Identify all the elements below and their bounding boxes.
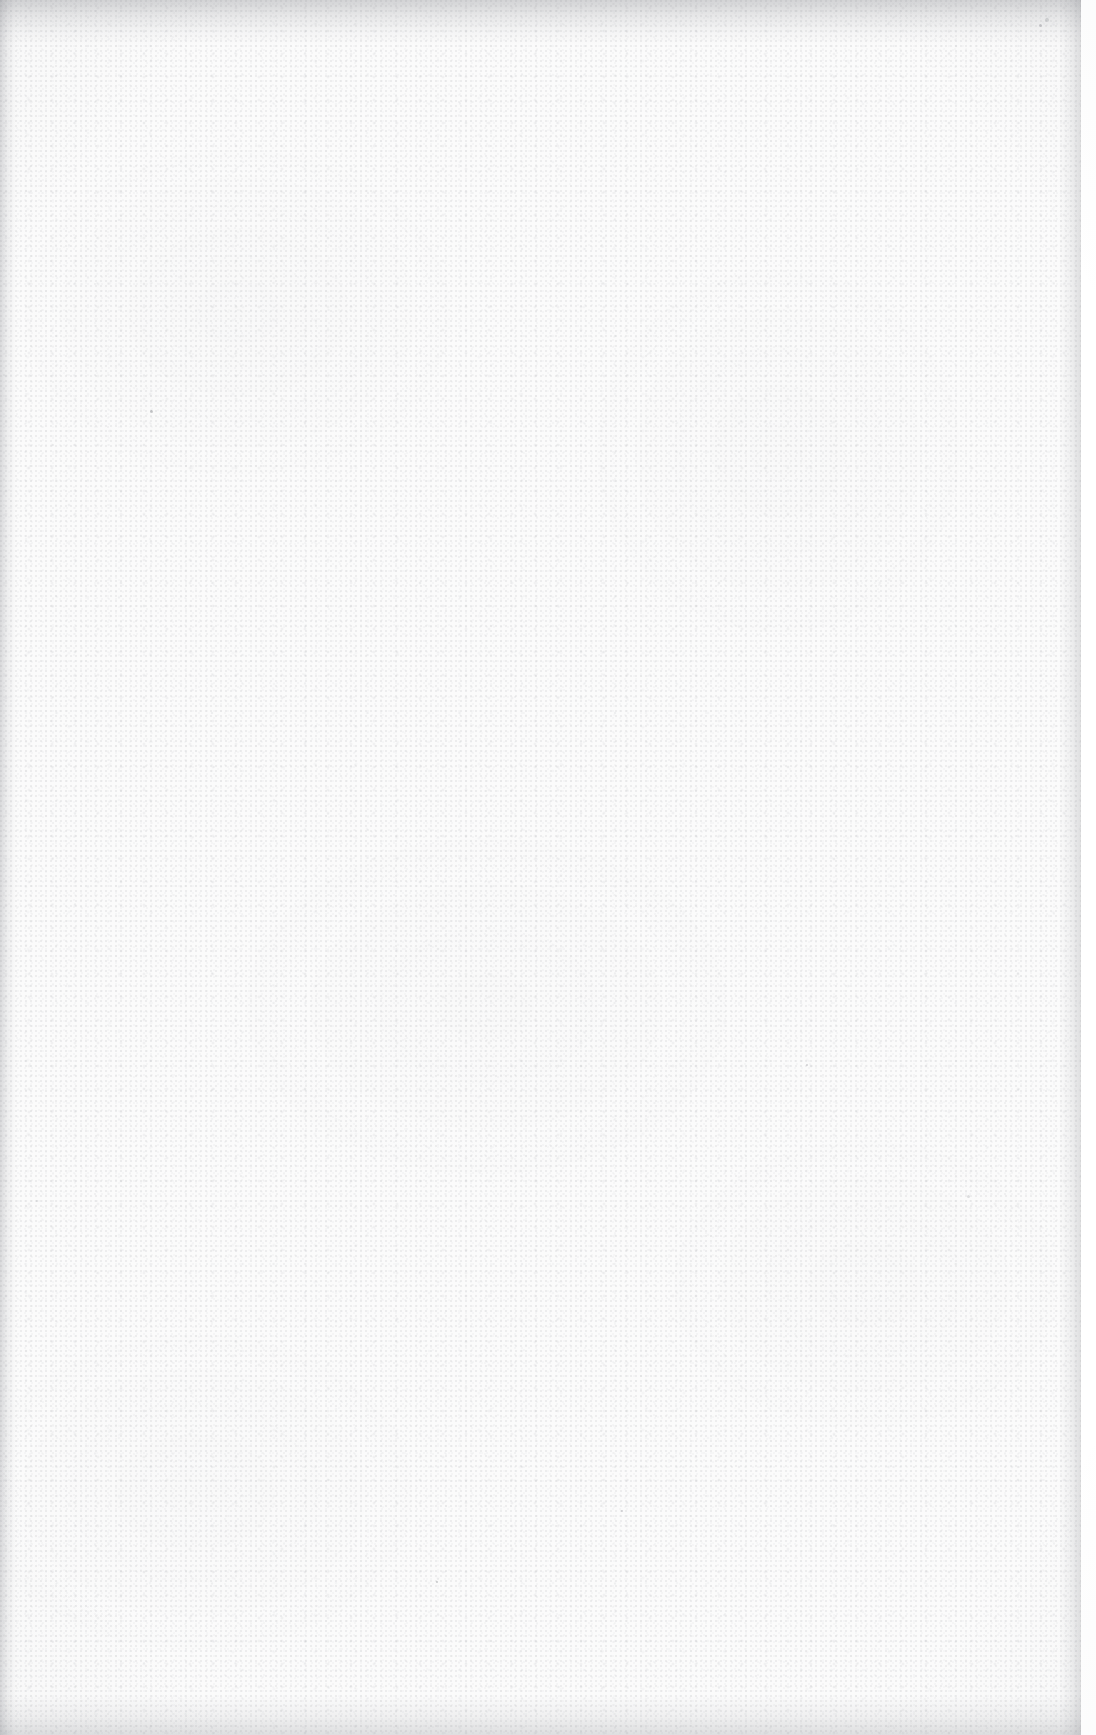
paper-grain-fine xyxy=(0,0,1081,1735)
scanner-backing-strip xyxy=(1081,0,1096,1735)
paper-grain-coarse xyxy=(0,0,1081,1735)
paper-mottling xyxy=(0,0,1081,1735)
scanned-page xyxy=(0,0,1096,1735)
paper-sheet xyxy=(0,0,1081,1735)
